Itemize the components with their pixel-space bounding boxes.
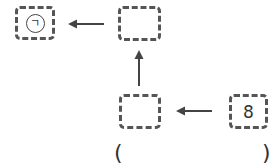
answer-value[interactable]	[130, 140, 260, 166]
answer-close-paren: )	[262, 140, 271, 165]
arrow-left-icon	[68, 18, 106, 30]
box-bottom-middle	[119, 94, 161, 129]
arrow-up-icon	[133, 50, 145, 86]
box-bottom-right: 8	[229, 94, 268, 129]
box-top-left: ㄱ	[15, 6, 55, 40]
box-label: 8	[243, 102, 254, 122]
circled-label: ㄱ	[26, 14, 45, 33]
box-top-middle	[118, 6, 161, 41]
answer-open-paren: (	[114, 140, 123, 165]
arrow-left-icon	[176, 105, 214, 117]
